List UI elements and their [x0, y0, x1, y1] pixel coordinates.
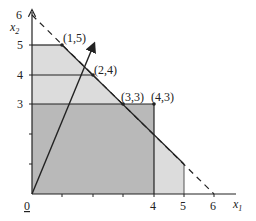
x-axis-label: x1: [232, 197, 242, 213]
y-tick-label-5: 5: [17, 38, 23, 52]
label-point-1-5: (1,5): [63, 31, 86, 45]
y-tick-label-4: 4: [17, 68, 23, 82]
x-tick-label-6: 6: [210, 199, 216, 213]
lp-diagram: (1,5) (2,4) (3,3) (4,3) 6 5 4 3 x2 0 4 5…: [0, 0, 256, 221]
x-tick-label-4: 4: [150, 199, 156, 213]
y-tick-label-6: 6: [16, 8, 22, 22]
y-tick-label-3: 3: [17, 97, 23, 111]
origin-label: 0: [24, 199, 30, 213]
y-axis-label: x2: [9, 20, 19, 36]
label-point-2-4: (2,4): [94, 63, 117, 77]
x-tick-label-5: 5: [180, 199, 186, 213]
label-point-4-3: (4,3): [151, 90, 174, 104]
label-point-3-3: (3,3): [121, 90, 144, 104]
